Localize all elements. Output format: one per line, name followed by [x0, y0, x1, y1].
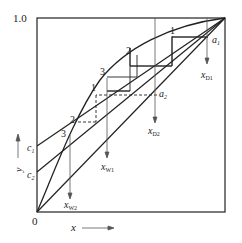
xD2-label: xD2 [147, 125, 160, 137]
y-max-label: 1.0 [13, 12, 27, 24]
composition-arrows [16, 18, 209, 230]
origin-label: 0 [32, 215, 38, 227]
stage-2-lower: 2 [70, 114, 75, 125]
stage-3-upper: 3 [100, 66, 105, 77]
y-axis-label: y [13, 167, 24, 173]
x-axis-label: x [70, 221, 76, 233]
diagonal-line [37, 18, 225, 212]
stage-1-upper: 1 [170, 25, 175, 36]
stage-2-upper: 2 [126, 45, 131, 56]
stage-1-lower: 1 [91, 82, 96, 93]
xD1-label: xD1 [200, 69, 213, 81]
xW2-label: xW2 [63, 199, 77, 211]
stage-3-lower: 3 [61, 128, 66, 139]
mccabe-thiele-diagram: 1.0 0 y x c1 c2 a1 a2 xD1 xD2 xW1 xW2 1 … [0, 0, 242, 243]
xW1-label: xW1 [100, 161, 114, 173]
a1-label: a1 [212, 34, 220, 46]
c1-label: c1 [27, 142, 34, 154]
a2-label: a2 [159, 88, 167, 100]
c2-label: c2 [27, 169, 34, 181]
